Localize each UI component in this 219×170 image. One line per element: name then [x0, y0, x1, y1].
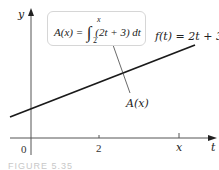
area-label: A(x): [126, 97, 149, 110]
callout-integrand: (2t + 3) dt: [95, 26, 141, 38]
origin-label: 0: [21, 143, 27, 155]
integral-formula: A(x) = ∫ x 2 (2t + 3) dt: [54, 21, 141, 41]
lower-limit: 2: [93, 36, 97, 45]
tick-label-2: 2: [96, 142, 102, 154]
figure: A(x) = ∫ x 2 (2t + 3) dt y t 0 2 x f(t) …: [0, 0, 219, 170]
integral-icon: ∫: [87, 23, 92, 42]
callout-lhs: A(x) =: [54, 26, 83, 38]
x-axis-label: t: [211, 141, 215, 154]
function-line: [10, 45, 195, 117]
tick-label-x: x: [176, 141, 182, 154]
function-label: f(t) = 2t + 3: [155, 30, 219, 43]
upper-limit: x: [97, 15, 101, 24]
y-axis-arrow-icon: [28, 8, 34, 16]
y-axis-label: y: [18, 8, 24, 21]
figure-caption: FIGURE 5.35: [8, 161, 73, 170]
integral-callout-box: A(x) = ∫ x 2 (2t + 3) dt: [47, 11, 146, 46]
leader-line: [113, 45, 130, 93]
